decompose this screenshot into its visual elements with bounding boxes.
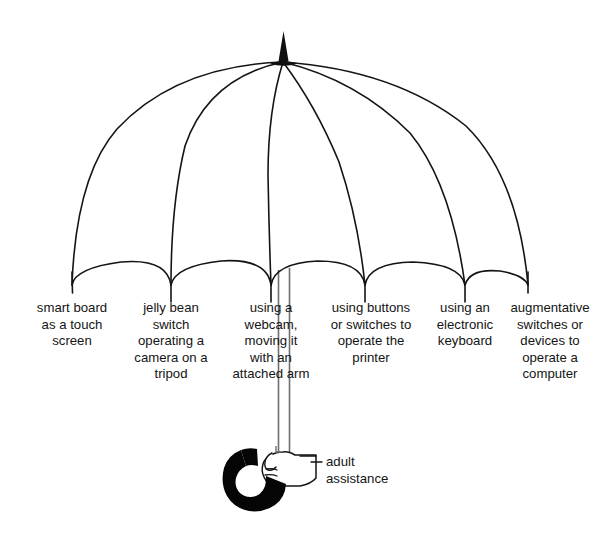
- umbrella-diagram: smart board as a touch screen jelly bean…: [0, 0, 612, 533]
- handle-label-adult-assistance: adult assistance: [326, 454, 416, 487]
- canopy-scalloped-edge: [72, 261, 528, 285]
- branch-label-webcam: using a webcam, moving it with an attach…: [214, 300, 328, 383]
- canopy-ribs: [72, 62, 528, 285]
- branch-label-printer-buttons: using buttons or switches to operate the…: [312, 300, 430, 366]
- umbrella-finial-spike: [270, 31, 298, 66]
- rib-tips: [72, 272, 528, 302]
- umbrella-illustration: [0, 0, 612, 533]
- branch-label-augmentative-switches: augmentative switches or devices to oper…: [495, 300, 605, 383]
